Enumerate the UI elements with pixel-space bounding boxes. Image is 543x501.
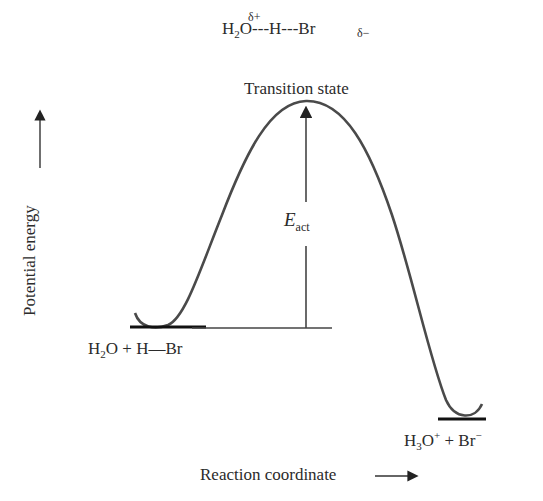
energy-curve: [135, 101, 482, 416]
delta-minus-label: δ−: [357, 26, 369, 41]
x-axis-label: Reaction coordinate: [200, 466, 336, 483]
transition-state-formula: H2O---H---Br: [222, 20, 315, 37]
y-axis-label: Potential energy: [20, 205, 40, 316]
activation-energy-label: Eact: [284, 210, 310, 229]
reactants-label: H2O + H—Br: [88, 340, 182, 357]
products-label: H3O+ + Br−: [404, 432, 482, 449]
transition-state-label: Transition state: [244, 80, 349, 97]
diagram-canvas: [0, 0, 543, 501]
energy-diagram: δ+ δ− H2O---H---Br Transition state Eact…: [0, 0, 543, 501]
